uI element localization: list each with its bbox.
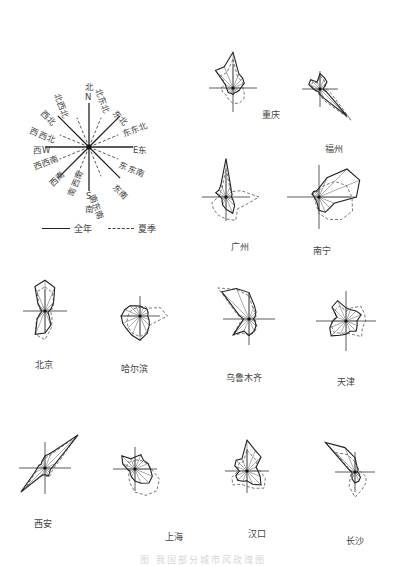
center-dot: [231, 86, 234, 89]
center-dot: [133, 467, 136, 470]
spoke: [247, 457, 261, 471]
center-dot: [43, 309, 46, 312]
spoke: [319, 197, 330, 208]
city-label: 重庆: [262, 108, 280, 121]
city-label: 乌鲁木齐: [226, 371, 262, 384]
city-label: 天津: [337, 375, 355, 388]
annual-polygon: [222, 289, 256, 336]
wind-rose-福州: [302, 71, 351, 120]
wind-rose-北京: [23, 280, 67, 339]
spoke: [216, 71, 234, 89]
city-label: 福州: [325, 142, 343, 155]
center-dot: [138, 314, 141, 317]
compass-center-dot: [87, 145, 92, 150]
spoke: [331, 321, 346, 336]
spoke: [21, 468, 45, 492]
wind-rose-广州: [202, 159, 259, 222]
compass-label: 西W: [33, 143, 50, 155]
figure-caption: 图 我国部分城市风玫瑰图: [0, 553, 406, 566]
center-dot: [344, 319, 347, 322]
city-label: 上海: [165, 530, 183, 543]
wind-rose-西安: [19, 435, 78, 494]
compass-solid-ray: [89, 147, 120, 178]
city-label: 南宁: [313, 244, 331, 257]
center-dot: [353, 470, 356, 473]
wind-rose-重庆: [209, 52, 257, 112]
wind-rose-乌鲁木齐: [218, 288, 275, 345]
wind-rose-南宁: [287, 165, 360, 229]
compass-solid-ray: [58, 116, 89, 147]
city-label: 广州: [231, 240, 249, 253]
center-dot: [245, 469, 248, 472]
spoke: [135, 469, 149, 483]
spoke: [345, 448, 355, 472]
wind-rose-汉口: [225, 440, 269, 493]
city-label: 西安: [34, 517, 52, 530]
spoke: [346, 321, 356, 331]
spoke: [346, 311, 356, 321]
wind-rose-哈尔滨: [120, 296, 168, 340]
wind-rose-长沙: [325, 442, 375, 497]
spoke: [127, 316, 140, 329]
line-style-legend: 全年 夏季: [42, 222, 156, 235]
center-dot: [247, 317, 250, 320]
compass-label: 南: [85, 202, 94, 214]
solid-line-swatch: [42, 228, 70, 229]
compass-label: E东: [133, 143, 147, 155]
city-label: 汉口: [248, 527, 266, 540]
wind-rose-上海: [113, 447, 159, 495]
annual-polygon: [309, 74, 347, 117]
center-dot: [224, 195, 227, 198]
dashed-line-swatch: [108, 228, 134, 229]
city-label: 长沙: [346, 534, 364, 547]
legend-annual-label: 全年: [74, 222, 92, 235]
center-dot: [43, 466, 46, 469]
center-dot: [318, 87, 321, 90]
city-label: 哈尔滨: [121, 362, 148, 375]
wind-rose-天津: [316, 291, 376, 351]
compass-label: S: [86, 191, 91, 201]
legend-summer-label: 夏季: [138, 222, 156, 235]
spoke: [135, 460, 144, 469]
city-wind-roses: [19, 52, 376, 497]
spoke: [238, 471, 247, 480]
city-label: 北京: [35, 358, 53, 371]
summer-polygon: [212, 168, 259, 220]
compass-label: N: [85, 92, 91, 102]
spoke: [45, 435, 78, 468]
center-dot: [317, 195, 320, 198]
annual-polygon: [216, 159, 235, 214]
spoke: [222, 292, 249, 319]
